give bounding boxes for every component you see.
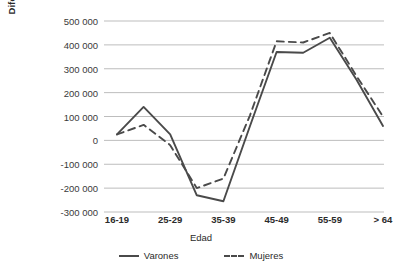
x-tick-label: 35-39 — [211, 214, 235, 225]
legend-line-icon — [119, 255, 139, 257]
x-tick-label: 25-29 — [158, 214, 182, 225]
y-tick-label: -100 000 — [34, 159, 98, 170]
y-tick-label: 100 000 — [34, 111, 98, 122]
y-axis-title: Diferencia en número de afiliados — [6, 0, 30, 50]
legend-line-icon — [224, 255, 244, 257]
line-chart: Diferencia en número de afiliados 500 00… — [0, 0, 402, 280]
legend-label: Mujeres — [249, 250, 283, 261]
series-line-mujeres — [117, 33, 383, 188]
y-tick-label: 0 — [34, 135, 98, 146]
legend-item-varones[interactable]: Varones — [119, 250, 179, 261]
x-tick-label: 45-49 — [264, 214, 288, 225]
y-tick-label: 400 000 — [34, 39, 98, 50]
y-tick-label: -200 000 — [34, 183, 98, 194]
x-tick-label: 55-59 — [318, 214, 342, 225]
x-tick-label: > 64 — [374, 214, 393, 225]
y-tick-label: 200 000 — [34, 87, 98, 98]
x-axis-title: Edad — [0, 232, 402, 243]
chart-legend: VaronesMujeres — [0, 250, 402, 261]
x-tick-label: 16-19 — [105, 214, 129, 225]
y-tick-label: -300 000 — [34, 207, 98, 218]
y-tick-label: 300 000 — [34, 63, 98, 74]
legend-item-mujeres[interactable]: Mujeres — [224, 250, 283, 261]
series-line-varones — [117, 38, 383, 202]
y-tick-label: 500 000 — [34, 16, 98, 27]
legend-label: Varones — [144, 250, 179, 261]
